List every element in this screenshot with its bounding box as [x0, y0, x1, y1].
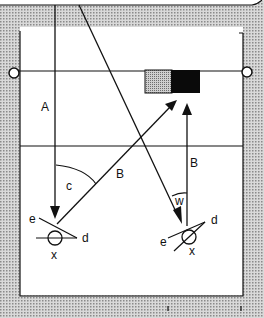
label-x-right: x	[189, 244, 195, 258]
left-endpoint-circle	[9, 68, 19, 78]
label-d-right: d	[211, 213, 218, 227]
label-B-vertical: B	[190, 156, 198, 170]
top-band	[0, 0, 264, 5]
target-black-half	[171, 70, 200, 93]
label-c: c	[66, 179, 72, 193]
label-e-left: e	[29, 212, 36, 226]
label-A: A	[41, 100, 49, 114]
label-w: w	[174, 194, 184, 208]
label-d-left: d	[82, 231, 89, 245]
diagram-svg: A B B c w e d x e d x	[0, 0, 264, 318]
diagram-canvas: A B B c w e d x e d x	[0, 0, 264, 318]
target-gray-half	[145, 70, 172, 93]
label-e-right: e	[160, 235, 167, 249]
right-endpoint-circle	[242, 67, 252, 77]
label-x-left: x	[51, 248, 57, 262]
label-B-diagonal: B	[116, 167, 124, 181]
